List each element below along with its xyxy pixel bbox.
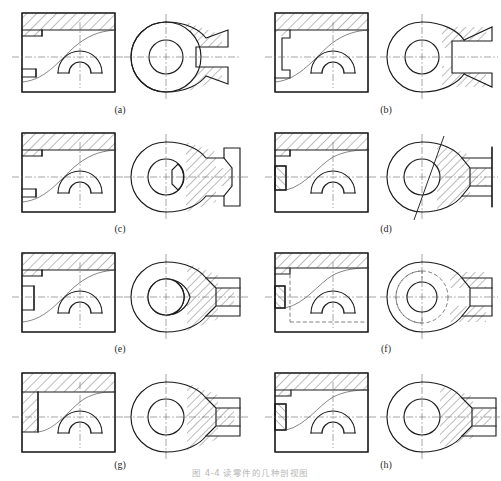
panel-label-c: (c) [114, 223, 125, 235]
panel-f-front-view [265, 253, 378, 332]
figure-canvas: (a) (b) [0, 0, 501, 481]
panel-g-front-view [12, 373, 125, 452]
panel-a-front-view [12, 13, 125, 92]
panel-h-front-view [265, 373, 378, 452]
panel-label-e: (e) [114, 343, 125, 355]
panel-b-front-view [265, 13, 378, 92]
panel-label-f: (f) [381, 343, 391, 355]
panel-label-a: (a) [114, 104, 125, 116]
panel-label-b: (b) [380, 104, 392, 116]
engineering-figure: (a) (b) [0, 0, 501, 481]
figure-caption: 图 4-4 读零件的几种剖视图 [0, 466, 501, 481]
section-hatch-2 [275, 166, 286, 190]
panel-label-d: (d) [380, 223, 392, 235]
panel-c-front-view [12, 133, 125, 212]
panel-e-front-view [12, 253, 125, 332]
panel-d-front-view [265, 133, 378, 212]
